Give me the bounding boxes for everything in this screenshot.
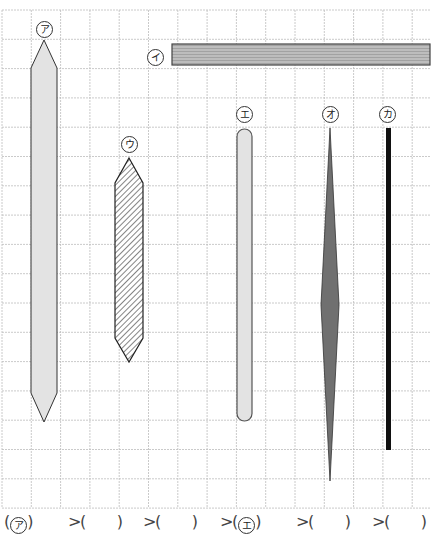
label-a: ア [36, 21, 53, 38]
label-e: エ [236, 106, 253, 123]
answer-slot-1[interactable]: (ア) [4, 512, 34, 532]
shape-o-needle [321, 128, 339, 481]
answer-slot-2[interactable]: ( ) [80, 512, 123, 531]
label-o: オ [322, 106, 339, 123]
label-u: ウ [121, 136, 138, 153]
shape-i-bar [172, 44, 430, 65]
answer-slot-4[interactable]: (エ) [232, 512, 262, 532]
shape-a-pencil [31, 40, 57, 422]
answer-slot-3[interactable]: ( ) [155, 512, 198, 531]
answer-slot-6[interactable]: ( ) [384, 512, 427, 531]
answer-slot-5[interactable]: ( ) [308, 512, 351, 531]
shape-ka-thick-line [386, 128, 391, 450]
shape-e-rounded-stick [237, 129, 252, 421]
label-i: イ [147, 49, 164, 66]
shape-u-hatched-pencil [115, 158, 143, 362]
grid [2, 10, 430, 508]
answer-order-row: (ア) > ( ) > ( ) > (エ) > ( ) > ( ) [0, 512, 435, 529]
label-ka: カ [379, 106, 396, 123]
